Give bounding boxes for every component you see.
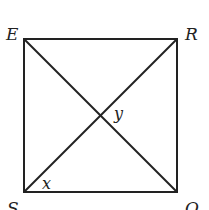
angle-label-x: x: [42, 174, 51, 193]
vertex-label-E: E: [5, 24, 19, 44]
square-diagram: E R S O y x: [0, 0, 209, 210]
vertex-label-S: S: [7, 198, 19, 210]
vertex-label-O: O: [185, 198, 199, 210]
angle-label-y: y: [113, 104, 124, 123]
vertex-label-R: R: [184, 24, 198, 44]
